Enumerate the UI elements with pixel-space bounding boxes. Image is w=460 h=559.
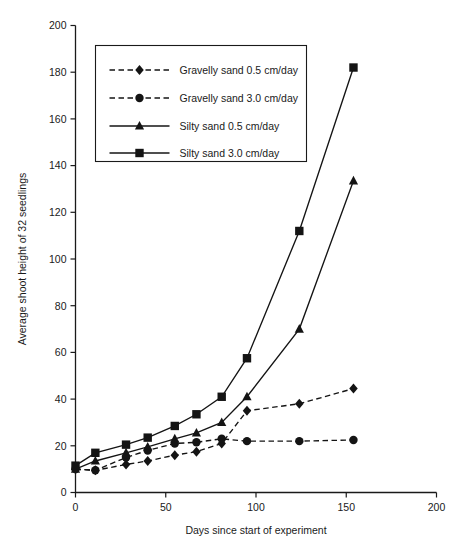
marker-diamond xyxy=(295,399,304,409)
legend-label: Gravelly sand 0.5 cm/day xyxy=(180,64,299,76)
y-tick-label: 80 xyxy=(55,300,67,312)
x-tick-label: 0 xyxy=(73,501,79,513)
y-tick-label: 0 xyxy=(61,486,67,498)
marker-diamond xyxy=(143,456,152,466)
line-chart-svg: 020406080100120140160180200050100150200D… xyxy=(0,0,460,559)
y-tick-label: 60 xyxy=(55,346,67,358)
marker-square xyxy=(218,393,226,401)
y-axis-ticks: 020406080100120140160180200 xyxy=(49,19,76,498)
marker-circle xyxy=(91,466,99,474)
marker-square xyxy=(192,410,200,418)
marker-square xyxy=(91,449,99,457)
x-tick-label: 200 xyxy=(428,501,446,513)
series-3 xyxy=(71,176,358,473)
x-axis-title: Days since start of experiment xyxy=(185,524,326,536)
marker-square xyxy=(243,354,251,362)
marker-diamond xyxy=(171,450,180,460)
y-tick-label: 160 xyxy=(49,113,67,125)
marker-circle xyxy=(218,435,226,443)
series-line xyxy=(76,181,354,469)
series-1 xyxy=(71,384,357,476)
legend-label: Silty sand 0.5 cm/day xyxy=(180,120,281,132)
series-line xyxy=(76,389,354,471)
marker-square xyxy=(71,461,79,469)
marker-square xyxy=(135,149,143,157)
marker-circle xyxy=(243,437,251,445)
x-tick-label: 100 xyxy=(247,501,265,513)
marker-circle xyxy=(349,436,357,444)
y-tick-label: 120 xyxy=(49,206,67,218)
series-2 xyxy=(71,435,357,475)
marker-circle xyxy=(135,94,143,102)
y-tick-label: 200 xyxy=(49,19,67,31)
marker-square xyxy=(122,440,130,448)
marker-square xyxy=(144,433,152,441)
marker-diamond xyxy=(192,447,201,457)
y-tick-label: 40 xyxy=(55,393,67,405)
marker-square xyxy=(295,227,303,235)
x-tick-label: 150 xyxy=(337,501,355,513)
marker-triangle xyxy=(349,176,358,185)
marker-square xyxy=(349,63,357,71)
y-tick-label: 140 xyxy=(49,159,67,171)
marker-circle xyxy=(192,438,200,446)
y-tick-label: 180 xyxy=(49,66,67,78)
legend-label: Silty sand 3.0 cm/day xyxy=(180,147,281,159)
chart-figure: 020406080100120140160180200050100150200D… xyxy=(0,0,460,559)
marker-triangle xyxy=(295,324,304,333)
x-tick-label: 50 xyxy=(160,501,172,513)
marker-circle xyxy=(295,437,303,445)
y-tick-label: 20 xyxy=(55,440,67,452)
y-axis-title: Average shoot height of 32 seedlings xyxy=(16,173,28,346)
marker-square xyxy=(171,422,179,430)
chart-legend: Gravelly sand 0.5 cm/dayGravelly sand 3.… xyxy=(96,46,307,162)
x-axis-ticks: 050100150200 xyxy=(73,493,446,513)
marker-diamond xyxy=(349,384,358,394)
y-tick-label: 100 xyxy=(49,253,67,265)
marker-diamond xyxy=(243,406,252,416)
legend-label: Gravelly sand 3.0 cm/day xyxy=(180,92,299,104)
